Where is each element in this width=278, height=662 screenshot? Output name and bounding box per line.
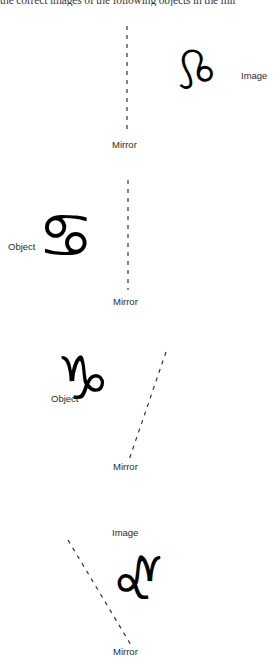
panel-2: ♋ Object Mirror: [0, 170, 278, 330]
panel-4: Image ♑ Mirror: [0, 490, 278, 662]
glyph-label-object-2: Object: [8, 241, 35, 252]
glyph-label-object-3: Object: [51, 393, 78, 404]
panel-3: ♑ Object Mirror: [0, 330, 278, 490]
mirror-line-vertical-1: [0, 0, 278, 170]
mirror-worksheet: the correct images of the following obje…: [0, 0, 278, 662]
mirror-label-1: Mirror: [112, 139, 137, 150]
glyph-leo-mirrored: ♌: [172, 44, 220, 98]
glyph-label-image-1: Image: [241, 70, 267, 81]
glyph-capricorn-mirrored: ♑: [112, 548, 166, 608]
mirror-label-4: Mirror: [113, 646, 138, 657]
mirror-label-2: Mirror: [113, 296, 138, 307]
mirror-line-tilted-3: [0, 330, 278, 490]
glyph-cancer: ♋: [38, 205, 94, 267]
glyph-label-image-4: Image: [112, 527, 138, 538]
mirror-label-3: Mirror: [113, 461, 138, 472]
panel-1: ♌ Image Mirror: [0, 0, 278, 170]
